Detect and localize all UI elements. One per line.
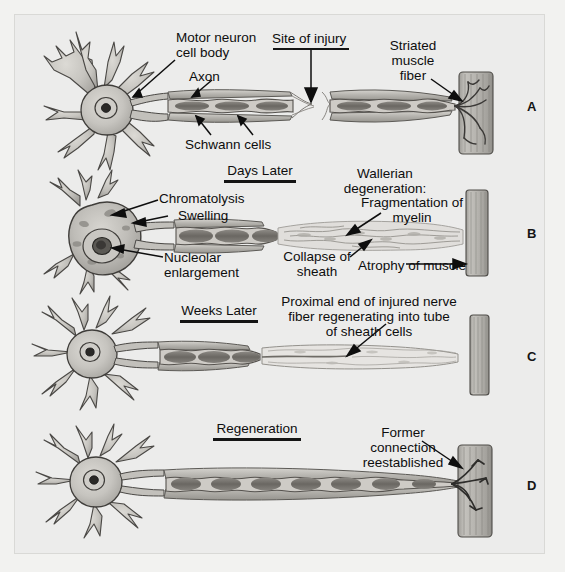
panel-letter-a: A	[527, 99, 537, 114]
stage-title-regeneration: Regeneration	[213, 421, 301, 436]
label-atrophy-of-muscle: Atrophy of muscle	[358, 258, 466, 273]
label-nucleolar-enlargement: Nucleolar enlargement	[164, 250, 239, 280]
label-proximal-end: Proximal end of injured nerve fiber rege…	[274, 294, 464, 339]
label-schwann-cells: Schwann cells	[185, 137, 271, 152]
label-axon: Axon	[189, 69, 220, 84]
stage-title-weeks-later: Weeks Later	[180, 303, 258, 318]
panel-letter-c: C	[527, 349, 537, 364]
label-collapse-of-sheath: Collapse of sheath	[281, 249, 353, 279]
label-swelling: Swelling	[178, 208, 228, 223]
label-site-of-injury: Site of injury	[272, 31, 346, 46]
stage-rule-weeks-later	[180, 320, 258, 323]
label-motor-neuron-cell-body: Motor neuron cell body	[176, 30, 256, 60]
stage-rule-days-later	[224, 180, 296, 183]
figure-frame	[14, 14, 545, 554]
label-wallerian-degeneration: Wallerian degeneration:	[333, 166, 437, 196]
panel-letter-d: D	[527, 478, 537, 493]
nerve-regeneration-figure: A B C D Days Later Weeks Later Regenerat…	[0, 0, 565, 572]
label-fragmentation-of-myelin: Fragmentation of myelin	[355, 195, 469, 225]
label-former-connection: Former connection reestablished	[357, 425, 449, 470]
panel-letter-b: B	[527, 226, 537, 241]
label-chromatolysis: Chromatolysis	[159, 191, 245, 206]
site-of-injury-rule	[273, 48, 349, 50]
stage-rule-regeneration	[213, 438, 301, 441]
stage-title-days-later: Days Later	[226, 163, 294, 178]
label-striated-muscle-fiber: Striated muscle fiber	[380, 38, 446, 83]
